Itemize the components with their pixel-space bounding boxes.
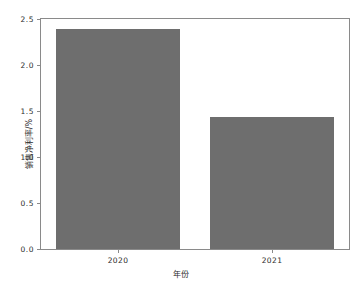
y-tick-mark <box>37 157 41 158</box>
bar-2021 <box>210 117 333 249</box>
y-tick-label: 2.5 <box>21 15 34 24</box>
bar-2020 <box>56 29 179 249</box>
y-tick-label: 1.5 <box>21 107 34 116</box>
y-tick-label: 0.5 <box>21 199 34 208</box>
y-tick-mark <box>37 203 41 204</box>
y-axis-title: 销售净利率/% <box>23 119 34 169</box>
x-tick-label: 2020 <box>108 256 129 265</box>
y-tick-mark <box>37 19 41 20</box>
bar-chart-figure: 0.0 0.5 1.0 1.5 2.0 2.5 2020 2021 <box>0 0 362 288</box>
y-tick-mark <box>37 65 41 66</box>
x-tick-mark <box>272 249 273 253</box>
y-tick-mark <box>37 111 41 112</box>
x-axis-title: 年份 <box>0 268 362 279</box>
x-tick-label: 2021 <box>262 256 283 265</box>
y-tick-mark <box>37 249 41 250</box>
x-tick-mark <box>118 249 119 253</box>
plot-area: 0.0 0.5 1.0 1.5 2.0 2.5 2020 2021 <box>40 18 350 250</box>
y-tick-label: 0.0 <box>21 245 34 254</box>
y-tick-label: 2.0 <box>21 61 34 70</box>
